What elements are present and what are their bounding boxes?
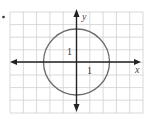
y-axis-down-arrow-icon bbox=[74, 104, 80, 112]
coordinate-plane-figure: y x 1 1 bbox=[0, 0, 147, 115]
bullet-marker bbox=[2, 16, 5, 19]
y-unit-tick-label: 1 bbox=[67, 46, 72, 57]
x-unit-tick-label: 1 bbox=[87, 65, 92, 76]
x-axis bbox=[10, 59, 141, 65]
y-axis-label: y bbox=[81, 11, 87, 22]
x-axis-label: x bbox=[134, 64, 140, 75]
x-axis-left-arrow-icon bbox=[10, 59, 17, 65]
y-axis-up-arrow-icon bbox=[74, 9, 80, 17]
